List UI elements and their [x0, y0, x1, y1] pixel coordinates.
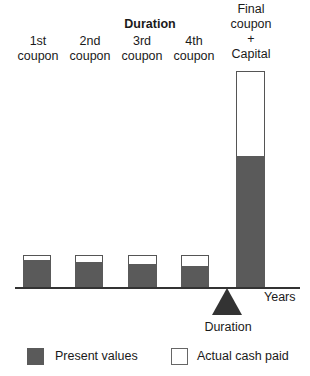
label-line: 3rd	[116, 34, 168, 49]
label-line: coupon	[12, 49, 64, 64]
label-line: 4th	[168, 34, 220, 49]
payment-label-5: Final coupon + Capital	[222, 2, 280, 62]
legend-swatch-present-values	[27, 348, 44, 365]
label-line: coupon	[222, 17, 280, 32]
present-value-bar-5	[236, 156, 265, 287]
duration-marker-label: Duration	[202, 320, 254, 335]
label-line: coupon	[116, 49, 168, 64]
legend-swatch-cash-paid	[171, 348, 188, 365]
label-line: 1st	[12, 34, 64, 49]
label-line: coupon	[64, 49, 116, 64]
cash-bar-4	[181, 255, 209, 287]
present-value-bar-1	[23, 260, 51, 287]
label-line: +	[222, 32, 280, 47]
legend-label-cash-paid: Actual cash paid	[197, 349, 289, 364]
x-axis-label: Years	[264, 290, 304, 305]
duration-triangle-icon	[212, 288, 242, 315]
time-axis	[15, 287, 300, 289]
label-line: Final	[222, 2, 280, 17]
present-value-bar-3	[128, 264, 157, 287]
cash-bar-3	[128, 255, 157, 287]
diagram-title: Duration	[110, 17, 190, 32]
payment-label-2: 2nd coupon	[64, 34, 116, 64]
label-line: coupon	[168, 49, 220, 64]
payment-label-1: 1st coupon	[12, 34, 64, 64]
present-value-bar-2	[75, 262, 103, 287]
payment-label-4: 4th coupon	[168, 34, 220, 64]
legend-label-present-values: Present values	[55, 349, 138, 364]
cash-bar-1	[23, 255, 51, 287]
label-line: 2nd	[64, 34, 116, 49]
payment-label-3: 3rd coupon	[116, 34, 168, 64]
present-value-bar-4	[181, 266, 209, 287]
cash-bar-2	[75, 255, 103, 287]
cash-bar-5	[236, 71, 265, 287]
label-line: Capital	[222, 47, 280, 62]
